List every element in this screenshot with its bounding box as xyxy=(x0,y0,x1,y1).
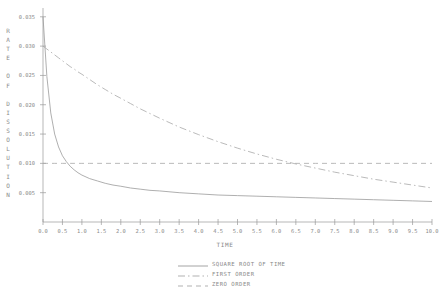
x-axis-tick-label: 10.0 xyxy=(422,228,442,234)
y-axis-tick-label: 0.005 xyxy=(5,190,35,196)
y-axis-tick-label: 0.015 xyxy=(5,131,35,137)
x-axis-tick-label: 0.5 xyxy=(52,228,72,234)
x-axis-tick-label: 7.0 xyxy=(305,228,325,234)
x-axis-tick-label: 3.0 xyxy=(150,228,170,234)
x-axis-tick-label: 6.0 xyxy=(266,228,286,234)
y-axis-tick-label: 0.020 xyxy=(5,102,35,108)
legend-line-sample xyxy=(178,285,208,287)
x-axis-tick-label: 6.5 xyxy=(286,228,306,234)
legend-item: ZERO ORDER xyxy=(178,281,388,291)
series-line-1 xyxy=(43,46,432,188)
x-axis-tick-label: 0.0 xyxy=(33,228,53,234)
x-axis-tick-label: 7.5 xyxy=(325,228,345,234)
x-axis-tick-label: 9.5 xyxy=(403,228,423,234)
x-axis-tick-label: 5.5 xyxy=(247,228,267,234)
x-axis-tick-label: 5.0 xyxy=(228,228,248,234)
chart-legend: SQUARE ROOT OF TIMEFIRST ORDERZERO ORDER xyxy=(178,261,388,291)
legend-item: FIRST ORDER xyxy=(178,271,388,281)
x-axis-tick-label: 1.5 xyxy=(91,228,111,234)
x-axis-tick-label: 8.5 xyxy=(364,228,384,234)
x-axis-title: TIME xyxy=(195,241,255,248)
legend-label: FIRST ORDER xyxy=(212,271,255,277)
x-axis-tick-label: 4.5 xyxy=(208,228,228,234)
plot-canvas xyxy=(0,0,445,297)
x-axis-tick-label: 2.0 xyxy=(111,228,131,234)
legend-label: SQUARE ROOT OF TIME xyxy=(212,261,286,267)
x-axis-tick-label: 9.0 xyxy=(383,228,403,234)
x-axis-tick-label: 2.5 xyxy=(130,228,150,234)
chart-figure: R A T E O F D I S S O L U T I O N 0.0350… xyxy=(0,0,445,297)
y-axis-tick-label: 0.035 xyxy=(5,14,35,20)
x-axis-tick-label: 8.0 xyxy=(344,228,364,234)
x-axis-tick-label: 1.0 xyxy=(72,228,92,234)
legend-line-sample xyxy=(178,275,208,277)
y-axis-tick-label: 0.010 xyxy=(5,160,35,166)
x-axis-tick-label: 3.5 xyxy=(169,228,189,234)
legend-item: SQUARE ROOT OF TIME xyxy=(178,261,388,271)
series-line-0 xyxy=(43,17,432,202)
legend-label: ZERO ORDER xyxy=(212,281,251,287)
legend-line-sample xyxy=(178,265,208,267)
x-axis-tick-label: 4.0 xyxy=(189,228,209,234)
y-axis-tick-label: 0.030 xyxy=(5,43,35,49)
y-axis-tick-label: 0.025 xyxy=(5,72,35,78)
